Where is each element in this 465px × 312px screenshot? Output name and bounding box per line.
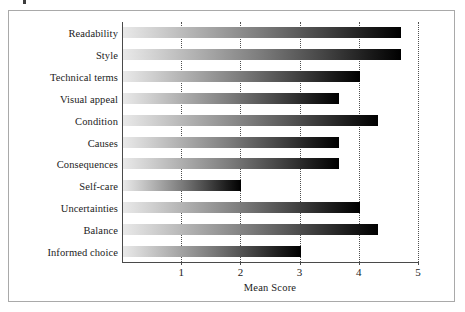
bar: [123, 71, 360, 82]
category-label: Condition: [18, 116, 118, 127]
tick-mark-x-1: [181, 262, 182, 265]
gridline-x-5: [418, 22, 419, 262]
category-label: Technical terms: [18, 72, 118, 83]
category-label: Style: [18, 50, 118, 61]
bar: [123, 202, 360, 213]
tick-mark-x-2: [240, 262, 241, 265]
category-axis-labels: ReadabilityStyleTechnical termsVisual ap…: [18, 22, 118, 262]
x-axis-title: Mean Score: [122, 282, 418, 293]
category-label: Balance: [18, 225, 118, 236]
figure-container: ReadabilityStyleTechnical termsVisual ap…: [0, 0, 465, 312]
x-tick-label: 3: [288, 266, 312, 278]
category-label: Causes: [18, 138, 118, 149]
x-tick-label: 5: [406, 266, 430, 278]
x-tick-label: 1: [169, 266, 193, 278]
bar: [123, 224, 378, 235]
bar: [123, 137, 339, 148]
tick-mark-x-5: [418, 262, 419, 265]
category-label: Visual appeal: [18, 94, 118, 105]
bar: [123, 180, 241, 191]
bar: [123, 246, 301, 257]
bar: [123, 49, 401, 60]
category-label: Informed choice: [18, 247, 118, 258]
x-tick-label: 4: [347, 266, 371, 278]
tick-mark-x-3: [300, 262, 301, 265]
bar: [123, 158, 339, 169]
category-label: Readability: [18, 28, 118, 39]
category-label: Consequences: [18, 159, 118, 170]
category-label: Uncertainties: [18, 203, 118, 214]
plot-area: [122, 22, 418, 262]
x-tick-label: 2: [228, 266, 252, 278]
x-axis-line: [122, 262, 418, 263]
category-label: Self-care: [18, 181, 118, 192]
tick-mark-x-4: [359, 262, 360, 265]
bar: [123, 27, 401, 38]
chart-plot: ReadabilityStyleTechnical termsVisual ap…: [0, 0, 465, 312]
bar: [123, 93, 339, 104]
bar: [123, 115, 378, 126]
